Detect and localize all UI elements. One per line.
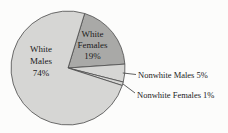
pie-label-line: 74% (20, 67, 62, 79)
pie-label-line: Females (71, 40, 114, 51)
pie-label-line: 19% (71, 51, 114, 62)
leader-line-nonwhite-females (123, 84, 135, 93)
pie-label-line: Males (20, 55, 62, 67)
pie-label-white-females: White Females 19% (71, 29, 114, 62)
pie-callout-nonwhite-males: Nonwhite Males 5% (138, 70, 208, 80)
pie-callout-nonwhite-females: Nonwhite Females 1% (137, 90, 214, 100)
pie-label-line: White (71, 29, 114, 40)
pie-label-white-males: White Males 74% (20, 43, 62, 79)
pie-chart-figure: White Males 74% White Females 19% Nonwhi… (0, 0, 228, 133)
pie-label-line: White (20, 43, 62, 55)
